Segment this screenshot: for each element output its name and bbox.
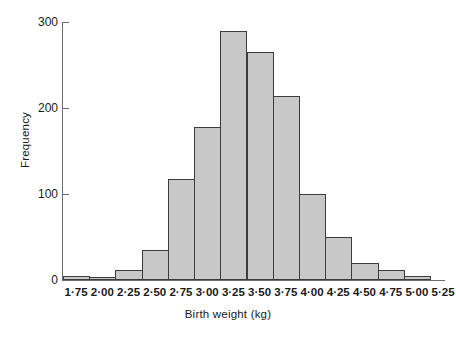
x-tick-label: 5·25 <box>421 284 456 300</box>
y-tick-label: 200 <box>18 102 58 114</box>
histogram-bar <box>168 179 195 280</box>
histogram-bar <box>194 127 221 280</box>
histogram-bar <box>404 276 431 280</box>
x-axis-line <box>62 280 445 281</box>
histogram-figure: Frequency 0100200300 1·752·002·252·502·7… <box>0 0 456 339</box>
histogram-bar <box>142 250 169 280</box>
histogram-bar <box>273 96 300 280</box>
histogram-bar <box>247 52 274 280</box>
histogram-bar <box>351 263 378 280</box>
histogram-bar <box>220 31 247 280</box>
x-axis-title: Birth weight (kg) <box>0 308 456 320</box>
plot-area <box>63 22 430 280</box>
y-tick-mark <box>63 108 69 109</box>
histogram-bar <box>115 270 142 280</box>
y-tick-mark <box>63 22 69 23</box>
y-tick-mark <box>63 280 69 281</box>
histogram-bar <box>325 237 352 280</box>
histogram-bar <box>89 277 116 280</box>
y-tick-label: 100 <box>18 188 58 200</box>
x-axis-ticks: 1·752·002·252·502·753·003·253·503·754·00… <box>0 284 456 302</box>
y-tick-mark <box>63 194 69 195</box>
y-tick-label: 300 <box>18 16 58 28</box>
histogram-bar <box>299 194 326 280</box>
histogram-bar <box>378 270 405 280</box>
